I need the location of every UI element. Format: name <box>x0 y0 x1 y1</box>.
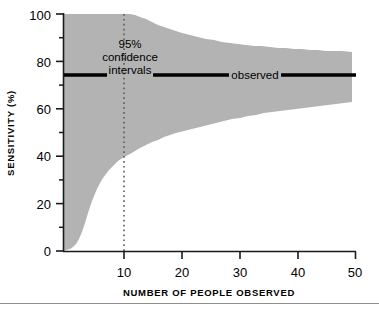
y-tick-label-60: 60 <box>37 102 51 117</box>
chart-figure: 100 80 60 40 20 0 10 20 30 40 50 NUMBER … <box>0 0 379 314</box>
confidence-band-area <box>64 14 353 251</box>
y-tick-label-40: 40 <box>37 149 51 164</box>
x-axis-title: NUMBER OF PEOPLE OBSERVED <box>123 287 295 298</box>
x-axis-major-ticks <box>124 252 356 260</box>
footer-divider <box>0 303 379 304</box>
x-tick-label-50: 50 <box>348 265 362 280</box>
y-tick-label-80: 80 <box>37 55 51 70</box>
y-tick-label-0: 0 <box>44 244 51 259</box>
observed-annotation: observed <box>231 69 278 81</box>
confidence-intervals-annotation-line-2: confidence <box>102 51 158 63</box>
x-tick-label-10: 10 <box>117 265 131 280</box>
y-tick-label-20: 20 <box>37 197 51 212</box>
y-tick-label-100: 100 <box>29 8 51 23</box>
confidence-interval-area-chart: 100 80 60 40 20 0 10 20 30 40 50 NUMBER … <box>0 0 379 314</box>
confidence-intervals-annotation-line-1: 95% <box>118 38 141 50</box>
confidence-intervals-annotation-line-3: intervals <box>109 64 152 76</box>
x-tick-label-30: 30 <box>233 265 247 280</box>
x-tick-label-40: 40 <box>291 265 305 280</box>
y-axis-title: SENSITIVITY (%) <box>5 90 16 176</box>
x-tick-label-20: 20 <box>175 265 189 280</box>
